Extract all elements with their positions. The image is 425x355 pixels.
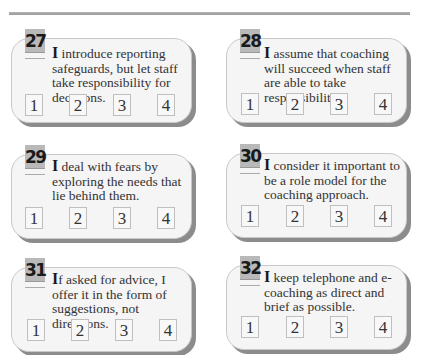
rating-option-3[interactable]: 3 [113,207,131,229]
rating-option-2[interactable]: 2 [286,93,304,115]
badge-underline [25,58,45,59]
question-body: consider it important to be a role model… [264,158,400,202]
question-text: I keep telephone and e-coaching as direc… [264,270,404,315]
badge-underline [25,174,45,175]
rating-option-3[interactable]: 3 [113,94,131,116]
badge-underline [240,285,260,286]
badge-underline [240,58,260,59]
question-text: I deal with fears by exploring the needs… [52,159,192,204]
rating-option-3[interactable]: 3 [115,319,133,341]
top-rule-divider [9,12,410,15]
rating-option-1[interactable]: 1 [25,207,43,229]
badge-underline [240,173,260,174]
rating-option-2[interactable]: 2 [71,319,89,341]
question-number-badge: 30 [240,144,260,168]
question-body: assume that coaching will succeed when s… [264,46,391,105]
question-number-badge: 31 [25,258,45,282]
question-number-badge: 32 [240,256,260,280]
rating-option-3[interactable]: 3 [330,93,348,115]
rating-option-4[interactable]: 4 [157,94,175,116]
question-body: keep telephone and e-coaching as direct … [264,270,392,314]
rating-option-3[interactable]: 3 [330,316,348,338]
rating-option-1[interactable]: 1 [25,94,43,116]
question-text: I consider it important to be a role mod… [264,158,404,203]
rating-option-1[interactable]: 1 [241,316,259,338]
rating-option-3[interactable]: 3 [330,205,348,227]
question-number-badge: 28 [240,29,260,53]
question-body: f asked for advice, I offer it in the fo… [52,272,167,331]
rating-option-1[interactable]: 1 [241,93,259,115]
rating-option-4[interactable]: 4 [159,319,177,341]
rating-option-4[interactable]: 4 [157,207,175,229]
rating-option-1[interactable]: 1 [27,319,45,341]
question-number-badge: 29 [25,145,45,169]
rating-option-2[interactable]: 2 [286,205,304,227]
question-body: deal with fears by exploring the needs t… [52,159,181,203]
question-number-badge: 27 [25,29,45,53]
rating-option-4[interactable]: 4 [374,205,392,227]
badge-underline [25,287,45,288]
rating-option-2[interactable]: 2 [69,94,87,116]
rating-option-4[interactable]: 4 [374,93,392,115]
rating-option-4[interactable]: 4 [374,316,392,338]
rating-option-2[interactable]: 2 [69,207,87,229]
rating-option-1[interactable]: 1 [241,205,259,227]
rating-option-2[interactable]: 2 [286,316,304,338]
